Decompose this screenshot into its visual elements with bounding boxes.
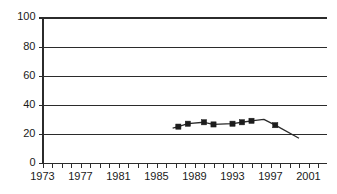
data-point-marker — [185, 121, 190, 126]
x-axis-group — [43, 164, 328, 168]
y-tick-label-100: 100 — [17, 10, 35, 22]
data-point-marker — [230, 121, 235, 126]
x-tick-label-1985: 1985 — [144, 170, 168, 182]
data-point-marker — [201, 120, 206, 125]
y-tick-label-0: 0 — [29, 156, 35, 168]
x-tick-label-1977: 1977 — [68, 170, 92, 182]
gridlines-group — [43, 18, 328, 134]
data-point-marker — [211, 122, 216, 127]
x-tick-label-2001: 2001 — [296, 170, 320, 182]
chart-container: 020406080100 197319771981198519891993199… — [0, 0, 337, 194]
y-tick-label-20: 20 — [23, 127, 35, 139]
y-axis-group — [39, 18, 43, 164]
y-tick-label-60: 60 — [23, 69, 35, 81]
x-tick-label-1993: 1993 — [220, 170, 244, 182]
data-series-group — [173, 119, 299, 138]
x-tick-label-1989: 1989 — [182, 170, 206, 182]
series-line-1 — [173, 119, 299, 138]
data-point-marker — [176, 124, 181, 129]
x-tick-label-1997: 1997 — [258, 170, 282, 182]
x-tick-label-1981: 1981 — [106, 170, 130, 182]
y-tick-labels-group: 020406080100 — [17, 10, 35, 168]
data-point-marker — [273, 123, 278, 128]
line-chart: 020406080100 197319771981198519891993199… — [0, 0, 337, 194]
data-point-marker — [239, 120, 244, 125]
y-tick-label-40: 40 — [23, 98, 35, 110]
data-point-marker — [249, 118, 254, 123]
x-tick-labels-group: 19731977198119851989199319972001 — [30, 170, 320, 182]
x-tick-label-1973: 1973 — [30, 170, 54, 182]
y-tick-label-80: 80 — [23, 40, 35, 52]
